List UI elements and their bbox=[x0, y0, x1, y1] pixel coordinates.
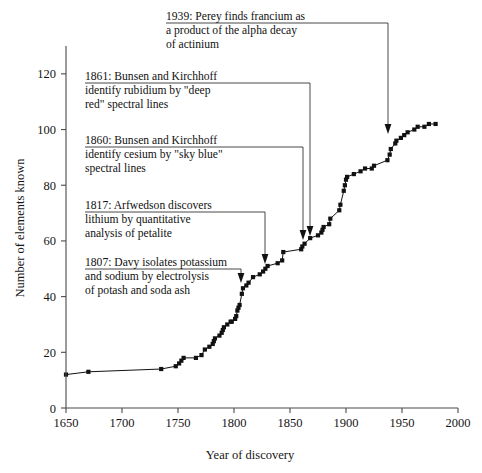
data-point-marker bbox=[434, 122, 438, 126]
data-point-marker bbox=[388, 153, 392, 157]
annotation-1939-line-3: of actinium bbox=[166, 38, 219, 51]
data-point-marker bbox=[372, 164, 376, 168]
data-point-marker bbox=[363, 166, 367, 170]
data-point-marker bbox=[422, 125, 426, 129]
data-point-marker bbox=[238, 303, 242, 307]
x-axis-tick-labels: 16501700175018001850190019502000 bbox=[54, 416, 471, 430]
y-axis-title: Number of elements known bbox=[13, 158, 27, 298]
data-point-marker bbox=[246, 281, 250, 285]
data-point-marker bbox=[385, 158, 389, 162]
data-point-marker bbox=[345, 175, 349, 179]
annotation-1861-line-2: identify rubidium by "deep bbox=[85, 84, 211, 97]
annotation-1861-line-3: red" spectral lines bbox=[85, 98, 169, 111]
annotation-1807-line-1: 1807: Davy isolates potassium bbox=[85, 256, 227, 269]
annotation-1939-line-1: 1939: Perey finds francium as bbox=[166, 10, 306, 23]
y-axis-tick-label: 0 bbox=[50, 402, 56, 416]
data-point-marker bbox=[281, 250, 285, 254]
annotation-1807: 1807: Davy isolates potassium and sodium… bbox=[85, 256, 227, 297]
arrowhead-1807 bbox=[238, 273, 245, 283]
annotation-1939: 1939: Perey finds francium as a product … bbox=[166, 10, 306, 51]
data-point-marker bbox=[416, 125, 420, 129]
x-axis-tick-label: 1800 bbox=[222, 416, 247, 430]
annotation-1817-line-2: lithium by quantitative bbox=[85, 213, 191, 226]
annotation-1860: 1860: Bunsen and Kirchhoff identify cesi… bbox=[85, 134, 223, 175]
annotation-1817: 1817: Arfwedson discovers lithium by qua… bbox=[85, 199, 212, 240]
y-axis-tick-labels: 020406080100120 bbox=[37, 67, 56, 415]
arrowhead-1861 bbox=[307, 226, 314, 236]
data-point-marker bbox=[240, 292, 244, 296]
annotation-1861: 1861: Bunsen and Kirchhoff identify rubi… bbox=[85, 70, 217, 111]
data-point-marker bbox=[199, 353, 203, 357]
data-point-marker bbox=[203, 347, 207, 351]
data-point-marker bbox=[427, 122, 431, 126]
y-axis-tick-label: 40 bbox=[44, 290, 57, 304]
arrowhead-1939 bbox=[385, 124, 392, 134]
data-point-marker bbox=[194, 356, 198, 360]
annotation-1861-line-1: 1861: Bunsen and Kirchhoff bbox=[85, 70, 217, 83]
data-point-marker bbox=[327, 222, 331, 226]
x-axis-tick-label: 1750 bbox=[166, 416, 191, 430]
arrowhead-1817 bbox=[262, 254, 269, 264]
y-axis-tick-label: 100 bbox=[37, 123, 56, 137]
annotation-1860-line-1: 1860: Bunsen and Kirchhoff bbox=[85, 134, 217, 147]
annotation-1807-line-3: of potash and soda ash bbox=[85, 284, 190, 297]
arrowhead-1860 bbox=[300, 230, 307, 240]
x-axis-tick-label: 1700 bbox=[110, 416, 135, 430]
data-point-marker bbox=[342, 189, 346, 193]
annotation-1860-line-3: spectral lines bbox=[85, 162, 146, 175]
data-point-marker bbox=[213, 336, 217, 340]
data-point-marker bbox=[302, 242, 306, 246]
annotation-1860-line-2: identify cesium by "sky blue" bbox=[85, 148, 223, 161]
data-point-marker bbox=[276, 261, 280, 265]
data-point-marker bbox=[234, 314, 238, 318]
y-axis-tick-label: 60 bbox=[44, 234, 57, 248]
data-point-marker bbox=[338, 203, 342, 207]
annotation-1939-line-2: a product of the alpha decay bbox=[166, 24, 297, 37]
y-axis-tick-label: 20 bbox=[44, 346, 57, 360]
data-point-marker bbox=[343, 183, 347, 187]
chart-figure: 020406080100120 165017001750180018501900… bbox=[0, 0, 482, 473]
data-point-marker bbox=[266, 264, 270, 268]
data-point-marker bbox=[389, 147, 393, 151]
data-point-marker bbox=[352, 172, 356, 176]
data-point-marker bbox=[159, 367, 163, 371]
data-point-marker bbox=[251, 275, 255, 279]
data-point-marker bbox=[182, 356, 186, 360]
elements-known-line-chart: 020406080100120 165017001750180018501900… bbox=[0, 0, 482, 473]
y-axis-ticks bbox=[61, 74, 66, 408]
x-axis-tick-label: 2000 bbox=[446, 416, 471, 430]
data-point-marker bbox=[328, 217, 332, 221]
data-point-marker bbox=[406, 130, 410, 134]
data-point-marker bbox=[394, 139, 398, 143]
x-axis-tick-label: 1850 bbox=[278, 416, 303, 430]
x-axis-tick-label: 1900 bbox=[334, 416, 359, 430]
y-axis-tick-label: 80 bbox=[44, 179, 57, 193]
data-point-marker bbox=[86, 370, 90, 374]
x-axis-ticks bbox=[66, 408, 458, 413]
x-axis-tick-label: 1650 bbox=[54, 416, 79, 430]
data-point-marker bbox=[322, 225, 326, 229]
x-axis-title: Year of discovery bbox=[206, 448, 295, 462]
annotation-1817-line-1: 1817: Arfwedson discovers bbox=[85, 199, 212, 212]
data-point-marker bbox=[358, 169, 362, 173]
annotation-1807-line-2: and sodium by electrolysis bbox=[85, 270, 209, 283]
data-point-marker bbox=[308, 236, 312, 240]
y-axis-tick-label: 120 bbox=[37, 67, 56, 81]
data-point-marker bbox=[280, 258, 284, 262]
data-point-marker bbox=[337, 208, 341, 212]
annotation-1817-line-3: analysis of petalite bbox=[85, 227, 172, 240]
x-axis-tick-label: 1950 bbox=[390, 416, 415, 430]
